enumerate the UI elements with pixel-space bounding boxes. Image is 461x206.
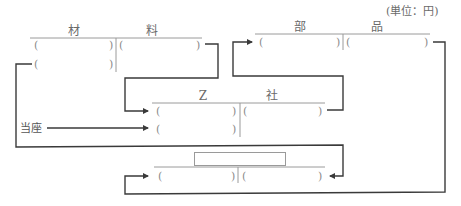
parts-title-right: 品 xyxy=(371,21,383,33)
unknown-credit-1-open: ( xyxy=(242,171,246,182)
parts-title-left: 部 xyxy=(294,21,306,33)
z-company-debit-1-close: ) xyxy=(232,106,236,117)
z-company-credit-1-close: ) xyxy=(318,106,322,117)
z-company-debit-1-open: ( xyxy=(156,106,160,117)
z-company-title-right: 社 xyxy=(266,90,278,102)
account-title-blank-box xyxy=(194,152,286,166)
unknown-debit-1-open: ( xyxy=(158,171,162,182)
parts-debit-1-open: ( xyxy=(259,37,263,48)
z-company-debit-2-open: ( xyxy=(156,124,160,135)
parts-credit-1-close: ) xyxy=(424,37,428,48)
material-debit-2-open: ( xyxy=(34,59,38,70)
z-company-title-left: Z xyxy=(199,90,207,102)
current-account-label: 当座 xyxy=(20,123,42,134)
material-credit-1-open: ( xyxy=(119,40,123,51)
material-debit-1-close: ) xyxy=(109,40,113,51)
material-title-left: 材 xyxy=(68,25,80,37)
material-debit-2-close: ) xyxy=(109,59,113,70)
z-company-debit-2-close: ) xyxy=(232,124,236,135)
connector-parts-to-unknown xyxy=(125,42,445,194)
unknown-debit-1-close: ) xyxy=(231,171,235,182)
material-credit-1-close: ) xyxy=(196,40,200,51)
unit-note: (単位：円) xyxy=(386,6,439,17)
t-account-diagram: (単位：円) 材 料 ( ) ( ) ( ) 部 品 ( ) ( ) Z 社 (… xyxy=(0,0,461,206)
parts-debit-1-close: ) xyxy=(336,37,340,48)
material-debit-1-open: ( xyxy=(34,40,38,51)
connector-z-to-parts xyxy=(233,42,343,110)
z-company-credit-1-open: ( xyxy=(243,106,247,117)
material-title-right: 料 xyxy=(146,25,158,37)
parts-credit-1-open: ( xyxy=(346,37,350,48)
connector-material-to-unknown xyxy=(16,64,343,176)
unknown-credit-1-close: ) xyxy=(318,171,322,182)
